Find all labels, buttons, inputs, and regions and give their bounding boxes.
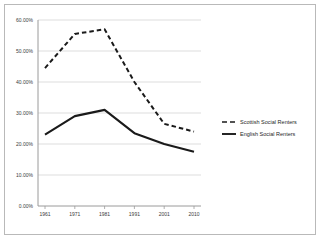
- y-axis-tick-label: 10.00%: [5, 172, 33, 178]
- series-line-scottish: [45, 29, 194, 131]
- data-series-layer: [45, 29, 194, 151]
- legend-dashed-line-icon: [221, 117, 237, 127]
- x-axis-tick-label: 1971: [63, 211, 87, 217]
- legend-label-scottish: Scottish Social Renters: [240, 119, 297, 125]
- x-axis-tick-label: 2001: [152, 211, 176, 217]
- legend-solid-line-icon: [221, 129, 237, 139]
- chart-legend: Scottish Social Renters English Social R…: [221, 117, 321, 147]
- y-axis-tick-label: 30.00%: [5, 110, 33, 116]
- x-axis-tick-label: 1981: [93, 211, 117, 217]
- y-axis-tick-label: 0.00%: [5, 203, 33, 209]
- x-axis-tick-label: 1961: [33, 211, 57, 217]
- legend-label-english: English Social Renters: [240, 131, 295, 137]
- series-line-english: [45, 110, 194, 152]
- legend-item-scottish: Scottish Social Renters: [221, 117, 321, 127]
- x-axis-tick-label: 2010: [182, 211, 206, 217]
- y-axis-tick-label: 40.00%: [5, 79, 33, 85]
- x-axis-tick-label: 1991: [122, 211, 146, 217]
- legend-item-english: English Social Renters: [221, 129, 321, 139]
- y-axis-tick-label: 60.00%: [5, 17, 33, 23]
- y-axis-tick-label: 50.00%: [5, 48, 33, 54]
- y-axis-tick-label: 20.00%: [5, 141, 33, 147]
- chart-container: 0.00%10.00%20.00%30.00%40.00%50.00%60.00…: [4, 4, 316, 235]
